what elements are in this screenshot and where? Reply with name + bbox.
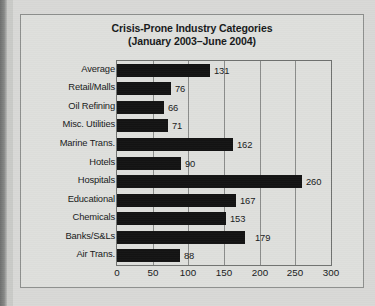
- chart-title: Crisis-Prone Industry Categories: [21, 22, 363, 35]
- bar-value-label: 153: [230, 212, 245, 225]
- chart-subtitle: (January 2003–June 2004): [21, 35, 363, 48]
- category-label: Chemicals: [21, 210, 115, 223]
- figure-frame: Crisis-Prone Industry Categories (Januar…: [20, 14, 364, 288]
- bar: [117, 194, 236, 207]
- bar-value-label: 179: [255, 231, 270, 244]
- category-label: Average: [21, 62, 115, 75]
- plot-wrapper: AverageRetail/MallsOil RefiningMisc. Uti…: [21, 60, 365, 285]
- bar-value-label: 66: [168, 101, 178, 114]
- bar-value-label: 88: [184, 249, 194, 262]
- category-label: Educational: [21, 192, 115, 205]
- bar: [117, 157, 181, 170]
- bar-value-label: 76: [175, 82, 185, 95]
- x-tick-label: 100: [180, 267, 196, 278]
- x-tick-label: 250: [287, 267, 303, 278]
- x-axis-ticks: 050100150200250300: [116, 267, 332, 283]
- bar: [117, 119, 168, 132]
- bar-value-label: 260: [306, 175, 321, 188]
- plot-area: 1317666711629026016715317988: [116, 60, 332, 266]
- bar-value-label: 162: [237, 138, 252, 151]
- category-label: Hotels: [21, 155, 115, 168]
- category-label: Air Trans.: [21, 247, 115, 260]
- category-label: Hospitals: [21, 173, 115, 186]
- category-label: Retail/Malls: [21, 80, 115, 93]
- bar: [117, 231, 245, 244]
- bar: [117, 82, 171, 95]
- bar: [117, 138, 233, 151]
- x-tick-label: 0: [114, 267, 119, 278]
- category-label: Marine Trans.: [21, 136, 115, 149]
- bar: [117, 249, 180, 262]
- bar: [117, 64, 210, 77]
- category-label: Oil Refining: [21, 99, 115, 112]
- category-label: Misc. Utilities: [21, 117, 115, 130]
- bar-value-label: 90: [185, 157, 195, 170]
- bar-value-label: 131: [214, 64, 229, 77]
- gridline-250: [295, 61, 296, 265]
- category-label: Banks/S&Ls: [21, 229, 115, 242]
- bar-value-label: 167: [240, 194, 255, 207]
- bar-value-label: 71: [172, 119, 182, 132]
- bar: [117, 101, 164, 114]
- x-tick-label: 200: [252, 267, 268, 278]
- category-axis-labels: AverageRetail/MallsOil RefiningMisc. Uti…: [21, 60, 115, 266]
- bar: [117, 175, 302, 188]
- page-scan-edge-inner: [7, 0, 13, 306]
- x-tick-label: 300: [323, 267, 339, 278]
- bar: [117, 212, 226, 225]
- x-tick-label: 150: [216, 267, 232, 278]
- x-tick-label: 50: [148, 267, 159, 278]
- page-scan-edge-left: [0, 0, 7, 306]
